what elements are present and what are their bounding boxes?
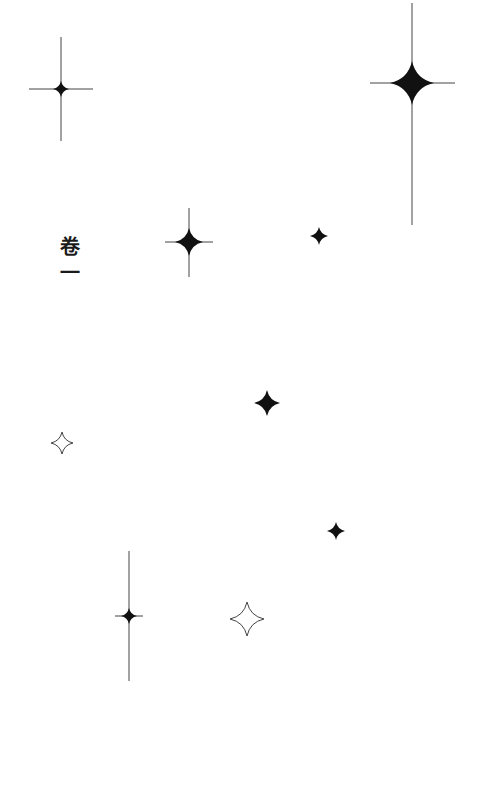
star-shape	[390, 61, 434, 105]
decorative-canvas	[0, 0, 487, 796]
star-shape	[53, 81, 69, 97]
star-shape	[175, 228, 203, 256]
star-shape	[230, 602, 264, 636]
star-shape	[254, 390, 280, 416]
star-shape	[327, 522, 345, 540]
star-mid-left-icon	[165, 208, 213, 277]
volume-title: 卷一	[58, 236, 78, 288]
star-small-3-icon	[327, 522, 345, 540]
star-bottom-left-icon	[115, 551, 143, 681]
star-shape	[310, 227, 328, 245]
star-small-2-icon	[254, 390, 280, 416]
star-outline-2-icon	[230, 602, 264, 636]
star-top-left-icon	[29, 37, 93, 141]
star-outline-1-icon	[51, 432, 73, 454]
star-small-1-icon	[310, 227, 328, 245]
star-top-right-large-icon	[370, 3, 455, 225]
star-shape	[51, 432, 73, 454]
star-shape	[121, 608, 137, 624]
